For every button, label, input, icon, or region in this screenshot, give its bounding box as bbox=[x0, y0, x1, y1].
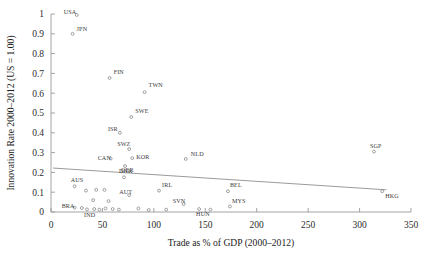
x-tick-label: 250 bbox=[301, 220, 316, 230]
x-tick-label: 350 bbox=[404, 220, 419, 230]
data-point-dnk bbox=[123, 176, 126, 179]
data-point bbox=[165, 208, 168, 211]
data-point-ind bbox=[86, 208, 89, 211]
y-tick-label: 0.6 bbox=[32, 89, 44, 99]
data-point-aus bbox=[73, 185, 76, 188]
point-label-fin: FIN bbox=[114, 69, 125, 75]
y-tick-label: 0.3 bbox=[32, 148, 44, 158]
y-tick-label: 0.1 bbox=[32, 188, 44, 198]
data-point bbox=[137, 207, 140, 210]
x-tick-label: 100 bbox=[147, 220, 162, 230]
point-label-aus: AUS bbox=[71, 177, 84, 183]
x-tick-label: 0 bbox=[49, 220, 54, 230]
regression-trend-line bbox=[53, 168, 386, 190]
axis-titles: Trade as % of GDP (2000–2012)Innovation … bbox=[5, 35, 294, 249]
x-axis-title: Trade as % of GDP (2000–2012) bbox=[168, 237, 294, 249]
y-tick-label: 0.8 bbox=[32, 49, 44, 59]
point-label-ind: IND bbox=[84, 212, 96, 218]
data-points bbox=[71, 14, 384, 212]
point-label-usa: USA bbox=[64, 9, 77, 15]
x-tick-label: 200 bbox=[250, 220, 265, 230]
data-point-swe bbox=[130, 116, 133, 119]
scatter-chart-figure: 05010015020025030035000.10.20.30.40.50.6… bbox=[0, 0, 429, 259]
point-label-sgp: SGP bbox=[370, 143, 382, 149]
y-tick-label: 0.9 bbox=[32, 29, 44, 39]
trend-line bbox=[53, 168, 386, 190]
point-label-bel: BEL bbox=[230, 182, 242, 188]
point-label-hkg: HKG bbox=[385, 193, 399, 199]
point-label-twn: TWN bbox=[149, 82, 164, 88]
y-tick-label: 0 bbox=[39, 207, 44, 217]
y-tick-label: 0.5 bbox=[32, 108, 44, 118]
data-point-bel bbox=[226, 190, 229, 193]
data-point-isr bbox=[118, 131, 121, 134]
chart-canvas: 05010015020025030035000.10.20.30.40.50.6… bbox=[0, 0, 429, 259]
point-label-hun: HUN bbox=[196, 211, 210, 217]
point-label-dnk: DNK bbox=[119, 168, 133, 174]
y-tick-label: 0.7 bbox=[32, 69, 44, 79]
point-label-nld: NLD bbox=[191, 151, 204, 157]
point-label-mys: MYS bbox=[232, 198, 246, 204]
data-point-twn bbox=[143, 91, 146, 94]
data-point bbox=[95, 188, 98, 191]
data-point-fin bbox=[108, 77, 111, 80]
data-point bbox=[111, 208, 114, 211]
data-point bbox=[93, 208, 96, 211]
data-point bbox=[107, 200, 110, 203]
data-point-nld bbox=[184, 157, 187, 160]
point-label-can: CAN bbox=[98, 155, 112, 161]
data-point bbox=[147, 209, 150, 212]
data-point bbox=[92, 199, 95, 202]
x-tick-label: 300 bbox=[352, 220, 367, 230]
point-label-swz: SWZ bbox=[117, 141, 130, 147]
point-label-swe: SWE bbox=[135, 108, 148, 114]
data-point-irl bbox=[158, 189, 161, 192]
point-label-aut: AUT bbox=[119, 189, 132, 195]
axes: 05010015020025030035000.10.20.30.40.50.6… bbox=[32, 9, 418, 230]
data-point bbox=[85, 189, 88, 192]
data-point bbox=[80, 207, 83, 210]
data-point bbox=[104, 207, 107, 210]
point-label-irl: IRL bbox=[162, 182, 172, 188]
data-point bbox=[103, 188, 106, 191]
point-label-jpn: JPN bbox=[77, 26, 88, 32]
data-point bbox=[98, 208, 101, 211]
data-point-sgp bbox=[373, 150, 376, 153]
point-label-isr: ISR bbox=[108, 126, 119, 132]
data-point-swz bbox=[128, 148, 131, 151]
x-tick-label: 150 bbox=[198, 220, 213, 230]
point-label-svn: SVN bbox=[173, 198, 186, 204]
x-tick-label: 50 bbox=[98, 220, 108, 230]
y-tick-label: 1 bbox=[39, 9, 44, 19]
data-point bbox=[117, 208, 120, 211]
y-axis-title: Innovation Rate 2000–2012 (US = 1.00) bbox=[5, 35, 17, 190]
point-label-bra: BRA bbox=[62, 203, 75, 209]
data-point-hkg bbox=[381, 190, 384, 193]
data-point-mys bbox=[229, 205, 232, 208]
data-point-jpn bbox=[71, 32, 74, 35]
point-label-kor: KOR bbox=[136, 154, 150, 160]
y-tick-label: 0.4 bbox=[32, 128, 44, 138]
y-tick-label: 0.2 bbox=[32, 168, 44, 178]
data-point-kor bbox=[131, 157, 134, 160]
